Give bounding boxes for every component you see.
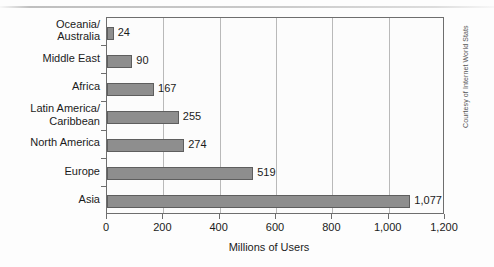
gridline [389,18,390,213]
x-tick [106,214,107,219]
x-axis-title-text: Millions of Users [229,241,310,253]
category-tick [101,73,106,74]
bar-value-label: 24 [118,26,130,39]
bar-value-label: 167 [158,82,176,95]
category-tick [101,45,106,46]
x-tick-label: 1,000 [363,221,413,233]
category-tick [101,130,106,131]
category-label: Latin America/ Caribbean [0,102,100,127]
category-tick [101,158,106,159]
x-tick-label: 400 [194,221,244,233]
x-tick-label: 800 [306,221,356,233]
category-label: Oceania/ Australia [0,18,100,43]
chart-page: 24901672552745191,077 Oceania/ Australia… [0,0,494,267]
bar-value-label: 255 [183,110,201,123]
x-tick-label: 600 [250,221,300,233]
category-tick [101,101,106,102]
bar [107,27,114,40]
bar [107,195,410,208]
category-label: Middle East [0,52,100,65]
bar-value-label: 90 [136,54,148,67]
x-tick [162,214,163,219]
x-tick-label: 0 [81,221,131,233]
category-label: Asia [0,193,100,206]
bar-value-label: 274 [188,138,206,151]
category-tick [101,186,106,187]
x-tick-label: 200 [137,221,187,233]
bar [107,111,179,124]
x-tick [275,214,276,219]
category-label: Europe [0,165,100,178]
x-axis-title: Millions of Users [0,241,494,253]
page-top-rule [0,6,494,8]
x-tick [219,214,220,219]
bar-value-label: 1,077 [414,194,442,207]
x-tick [388,214,389,219]
category-label: North America [0,136,100,149]
source-credit: Courtesy of Internet World Stats [462,25,469,128]
plot-area: 24901672552745191,077 [106,17,444,214]
bar [107,167,253,180]
gridline [220,18,221,213]
bar [107,139,184,152]
gridline [276,18,277,213]
category-label: Africa [0,80,100,93]
bar [107,55,132,68]
x-tick-label: 1,200 [419,221,469,233]
x-tick [331,214,332,219]
x-tick [444,214,445,219]
gridline [332,18,333,213]
bar-value-label: 519 [257,166,275,179]
bar [107,83,154,96]
